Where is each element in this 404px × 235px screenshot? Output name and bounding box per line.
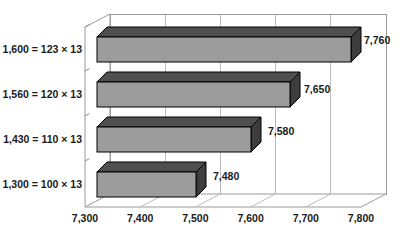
category-label-0: 1,600 = 123 × 13	[3, 43, 83, 55]
chart-container: 1,600 = 123 × 13 1,560 = 120 × 13 1,430 …	[0, 0, 404, 235]
x-tick-label-4: 7,700	[293, 212, 319, 224]
bar-chart-3d: 1,600 = 123 × 13 1,560 = 120 × 13 1,430 …	[0, 0, 404, 235]
data-label-1: 7,650	[304, 83, 330, 95]
data-label-3: 7,480	[213, 170, 239, 182]
data-label-0: 7,760	[364, 34, 390, 46]
x-tick-label-5: 7,800	[348, 212, 374, 224]
x-axis-tick-labels: 7,300 7,400 7,500 7,600 7,700 7,800	[72, 212, 374, 224]
data-label-2: 7,580	[268, 125, 294, 137]
bar-row-0[interactable]	[97, 27, 361, 62]
x-tick-label-1: 7,400	[127, 212, 153, 224]
bar-top-face	[97, 72, 300, 82]
x-tick-label-0: 7,300	[72, 212, 98, 224]
category-label-2: 1,430 = 110 × 13	[3, 133, 82, 145]
bar-top-face	[97, 27, 361, 37]
x-tick-label-3: 7,600	[237, 212, 263, 224]
bar-row-2[interactable]	[97, 117, 261, 152]
category-label-3: 1,300 = 100 × 13	[3, 178, 83, 190]
bar-top-face	[97, 117, 261, 127]
bar-row-1[interactable]	[97, 72, 300, 107]
bar-row-3[interactable]	[97, 162, 206, 197]
bar-front-face	[97, 37, 351, 62]
category-labels: 1,600 = 123 × 13 1,560 = 120 × 13 1,430 …	[3, 43, 83, 190]
bar-front-face	[97, 172, 196, 197]
bar-front-face	[97, 127, 251, 152]
category-label-1: 1,560 = 120 × 13	[3, 88, 83, 100]
bar-front-face	[97, 82, 290, 107]
bar-top-face	[97, 162, 206, 172]
x-tick-label-2: 7,500	[182, 212, 208, 224]
